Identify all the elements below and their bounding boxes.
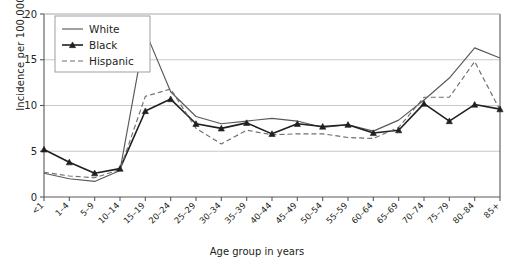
svg-text:White: White bbox=[89, 23, 120, 35]
svg-text:5–9: 5–9 bbox=[78, 200, 96, 218]
svg-text:<1: <1 bbox=[29, 200, 45, 216]
svg-text:5: 5 bbox=[31, 146, 37, 157]
x-tick-marks bbox=[44, 197, 500, 201]
svg-text:80–84: 80–84 bbox=[451, 200, 476, 225]
svg-text:45–49: 45–49 bbox=[273, 200, 298, 225]
chart-legend: WhiteBlackHispanic bbox=[55, 16, 150, 72]
svg-text:55–59: 55–59 bbox=[324, 200, 349, 225]
series-markers bbox=[41, 96, 503, 176]
svg-text:10: 10 bbox=[24, 100, 37, 111]
svg-text:85+: 85+ bbox=[482, 200, 502, 220]
svg-text:15: 15 bbox=[24, 54, 37, 65]
svg-text:20: 20 bbox=[24, 9, 37, 20]
svg-text:70–74: 70–74 bbox=[400, 200, 425, 225]
line-chart-plot: 05101520 <11–45–910–1415–1920–2425–2930–… bbox=[0, 0, 514, 267]
svg-text:40–44: 40–44 bbox=[248, 200, 273, 225]
chart-container: Incidence per 100,000 Age group in years… bbox=[0, 0, 514, 267]
y-tick-labels: 05101520 bbox=[24, 9, 44, 203]
svg-text:20–24: 20–24 bbox=[147, 200, 172, 225]
svg-text:65–69: 65–69 bbox=[375, 200, 400, 225]
svg-text:60–64: 60–64 bbox=[349, 200, 374, 225]
svg-text:15–19: 15–19 bbox=[121, 200, 146, 225]
svg-text:0: 0 bbox=[31, 192, 37, 203]
svg-text:10–14: 10–14 bbox=[96, 200, 121, 225]
svg-text:30–34: 30–34 bbox=[197, 200, 222, 225]
svg-text:50–54: 50–54 bbox=[299, 200, 324, 225]
x-tick-labels: <11–45–910–1415–1920–2425–2930–3435–3940… bbox=[29, 200, 501, 225]
svg-text:Hispanic: Hispanic bbox=[89, 55, 134, 67]
svg-text:75–79: 75–79 bbox=[425, 200, 450, 225]
svg-text:25–29: 25–29 bbox=[172, 200, 197, 225]
svg-text:35–39: 35–39 bbox=[223, 200, 248, 225]
svg-text:1–4: 1–4 bbox=[53, 200, 71, 218]
svg-text:Black: Black bbox=[89, 39, 118, 51]
